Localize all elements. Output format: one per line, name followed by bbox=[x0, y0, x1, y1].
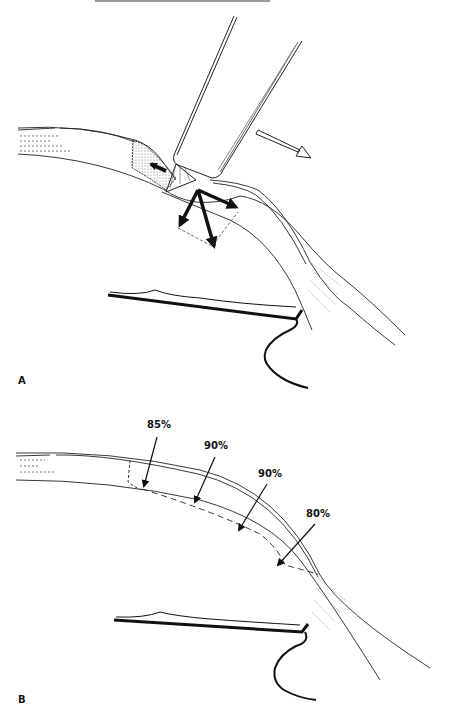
blade bbox=[166, 16, 302, 192]
depth-arrows bbox=[144, 437, 315, 565]
depth-label-85: 85% bbox=[147, 419, 171, 430]
panel-a-drawing bbox=[18, 16, 405, 388]
iris-a bbox=[108, 290, 308, 388]
panel-b-drawing: 85% 90% 90% 80% bbox=[16, 419, 430, 700]
depth-label-90-b: 90% bbox=[258, 468, 282, 479]
depth-label-90-a: 90% bbox=[204, 440, 228, 451]
figure-canvas: A 85% 90% 90% 80% B bbox=[0, 0, 449, 711]
hollow-arrow-icon bbox=[256, 130, 311, 158]
depth-label-80: 80% bbox=[306, 508, 330, 519]
force-vector-arrows bbox=[178, 190, 238, 246]
iris-b bbox=[114, 612, 316, 700]
tissue-layers-b bbox=[16, 453, 430, 680]
panel-label-b: B bbox=[18, 694, 26, 705]
panel-label-a: A bbox=[18, 375, 26, 386]
